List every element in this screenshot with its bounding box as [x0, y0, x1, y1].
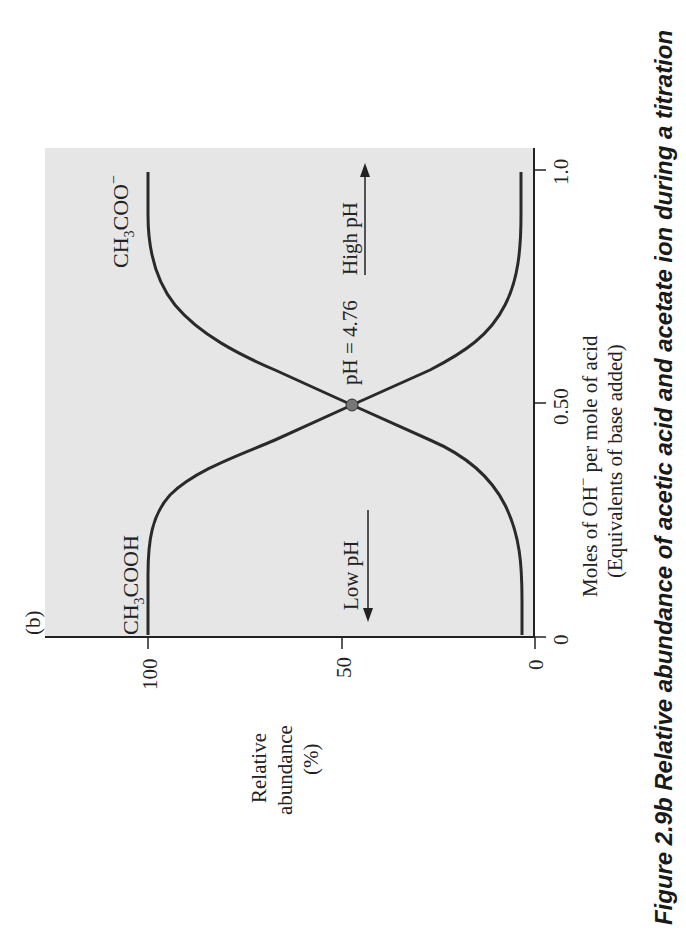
y-tick-label-0: 0	[524, 660, 548, 671]
panel-label: (b)	[21, 611, 45, 636]
chart-figure: (b) CH3COOH CH3COO− pH = 4.76 Low pH Hig…	[0, 0, 686, 940]
y-tick-label-100: 100	[138, 659, 162, 691]
x-tick-label-1: 1.0	[549, 159, 573, 185]
figure-caption: Figure 2.9b Relative abundance of acetic…	[651, 30, 677, 925]
y-axis-title-line3: (%)	[299, 744, 323, 775]
y-tick-label-50: 50	[332, 657, 356, 678]
x-axis-title-line2: (Equivalents of base added)	[603, 344, 627, 578]
midpoint-label: pH = 4.76	[338, 300, 362, 385]
x-axis-title-line1: Moles of OH− per mole of acid	[575, 335, 602, 597]
high-ph-label: High pH	[338, 202, 362, 275]
y-axis-title-line1: Relative	[247, 733, 271, 803]
midpoint-marker	[346, 399, 358, 411]
base-label: CH3COO−	[105, 175, 137, 268]
y-axis-title-line2: abundance	[273, 725, 297, 815]
low-ph-label: Low pH	[339, 541, 363, 610]
x-tick-label-050: 0.50	[549, 388, 573, 425]
acid-label: CH3COOH	[118, 535, 147, 635]
x-tick-label-0: 0	[549, 635, 573, 646]
